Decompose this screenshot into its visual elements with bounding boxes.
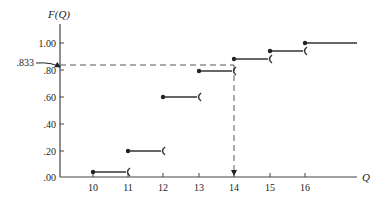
x-ticks: 10 11 12 13 14 15 16 bbox=[88, 173, 310, 193]
step-cdf-chart: F(Q) Q 1.00 .80 .60 .40 .20 .00 10 11 12… bbox=[0, 0, 381, 200]
x-tick-label: 12 bbox=[158, 182, 168, 193]
cdf-steps bbox=[91, 41, 357, 176]
x-tick-label: 11 bbox=[123, 182, 133, 193]
x-tick-label: 10 bbox=[88, 182, 98, 193]
x-tick-label: 13 bbox=[194, 182, 204, 193]
y-tick-label: 1.00 bbox=[39, 38, 57, 49]
y-tick-label: .40 bbox=[44, 119, 57, 130]
annotation-label: .833 bbox=[17, 57, 35, 68]
x-tick-label: 16 bbox=[300, 182, 310, 193]
y-tick-label: .00 bbox=[44, 172, 57, 183]
y-axis-title: F(Q) bbox=[47, 8, 70, 21]
x-axis-title: Q bbox=[362, 171, 370, 183]
y-tick-label: .20 bbox=[44, 146, 57, 157]
x-tick-label: 14 bbox=[229, 182, 239, 193]
y-tick-label: .80 bbox=[44, 65, 57, 76]
y-tick-label: .60 bbox=[44, 92, 57, 103]
x-tick-label: 15 bbox=[265, 182, 275, 193]
